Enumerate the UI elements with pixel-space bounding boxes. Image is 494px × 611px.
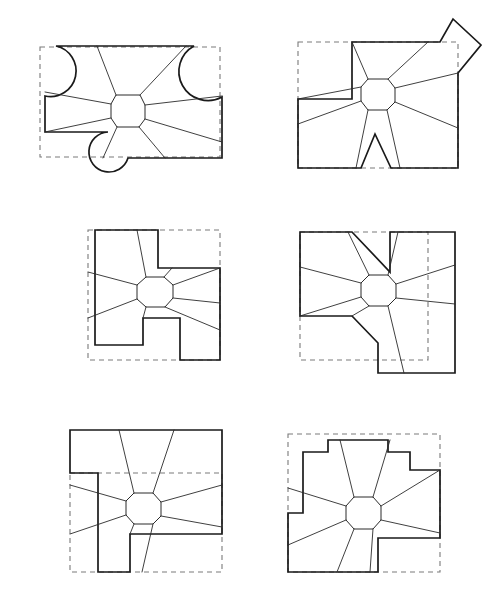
figure-6-mesh [288,440,440,572]
figure-1-group [40,46,222,172]
figure-2-core-octagon [361,79,395,110]
figure-set-canvas [0,0,494,611]
figure-2-mesh [298,42,458,168]
figure-6-outline [288,440,440,572]
figure-1-core-octagon [111,95,145,127]
figure-4-group [300,232,455,373]
figure-5-outline [70,430,222,572]
figure-3-core-octagon [137,277,173,307]
figure-6-group [288,434,440,572]
figure-4-outline [300,232,455,373]
figure-1-mesh [45,46,222,158]
figure-3-group [88,230,220,360]
figure-2-reference-rect [298,42,458,168]
figure-5-mesh [70,430,222,572]
figure-2-group [298,19,481,168]
figure-4-reference-rect [300,232,428,360]
figure-6-reference-rect [288,434,440,572]
figure-board [0,0,494,611]
figure-4-core-octagon [361,275,396,306]
figure-5-core-octagon [126,493,161,524]
figure-1-outline [45,46,222,172]
figure-3-outline [95,230,220,360]
figure-1-reference-rect [40,47,220,157]
figure-3-mesh [88,230,220,330]
figure-3-reference-rect [88,230,220,360]
figure-6-core-octagon [346,497,381,529]
figure-5-group [70,430,222,572]
